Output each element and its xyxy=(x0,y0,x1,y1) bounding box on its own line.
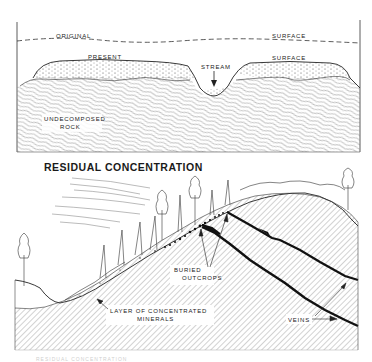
residual-concentration-figure: ORIGINAL SURFACE PRESENT SURFACE STREAM … xyxy=(0,0,372,362)
label-surface-original: SURFACE xyxy=(272,33,306,39)
footer-caption: RESIDUAL CONCENTRATION xyxy=(36,356,127,362)
weathering-profile-diagram: ORIGINAL SURFACE PRESENT SURFACE STREAM … xyxy=(17,20,360,152)
label-undecomposed: UNDECOMPOSED xyxy=(44,116,106,122)
label-present: PRESENT xyxy=(88,54,122,60)
label-surface-present: SURFACE xyxy=(272,55,306,61)
label-veins: VEINS xyxy=(288,317,310,323)
stream-arrow-icon xyxy=(211,71,217,87)
label-rock: ROCK xyxy=(60,124,81,130)
hillside-cross-section-diagram: BURIED OUTCROPS LAYER OF CONCENTRATED MI… xyxy=(15,168,358,350)
sky-streaks xyxy=(52,178,150,228)
section-title: RESIDUAL CONCENTRATION xyxy=(44,161,203,173)
label-buried: BURIED xyxy=(174,267,201,273)
label-minerals: MINERALS xyxy=(137,316,174,322)
label-stream: STREAM xyxy=(201,64,231,70)
label-outcrops: OUTCROPS xyxy=(182,275,222,281)
label-layer: LAYER OF CONCENTRATED xyxy=(110,308,207,314)
label-original: ORIGINAL xyxy=(56,33,91,39)
